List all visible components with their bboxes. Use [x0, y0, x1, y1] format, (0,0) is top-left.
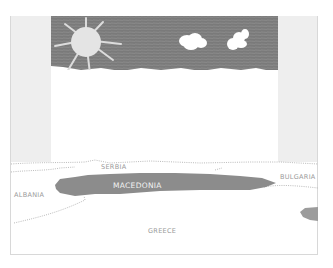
macedonia-region — [55, 173, 276, 196]
border-lines — [11, 160, 318, 223]
label-macedonia: MACEDONIA — [113, 181, 162, 190]
label-albania: ALBANIA — [14, 191, 44, 199]
label-greece: GREECE — [148, 227, 176, 235]
sea-region — [300, 207, 318, 221]
label-bulgaria: BULGARIA — [280, 173, 316, 181]
label-serbia: SERBIA — [101, 163, 126, 171]
